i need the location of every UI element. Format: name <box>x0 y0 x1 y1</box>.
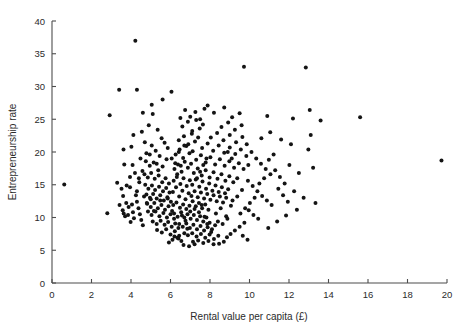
data-point <box>189 194 193 198</box>
data-point <box>228 145 232 149</box>
data-point <box>208 233 212 237</box>
data-point <box>195 218 199 222</box>
data-point <box>221 222 225 226</box>
data-point <box>166 197 170 201</box>
data-point <box>184 197 188 201</box>
data-point <box>137 180 141 184</box>
data-point <box>155 162 159 166</box>
data-point <box>135 88 139 92</box>
data-point <box>246 238 250 242</box>
data-point <box>254 157 258 161</box>
y-tick-label: 0 <box>40 278 45 289</box>
data-point <box>150 103 154 107</box>
data-point <box>193 207 197 211</box>
data-point <box>246 163 250 167</box>
data-point <box>131 163 135 167</box>
data-point <box>220 185 224 189</box>
data-point <box>278 175 282 179</box>
data-point <box>231 198 235 202</box>
data-point <box>157 174 161 178</box>
data-point <box>166 220 170 224</box>
data-point <box>225 235 229 239</box>
data-point <box>216 177 220 181</box>
data-point <box>201 122 205 126</box>
data-point <box>156 168 160 172</box>
x-tick-label: 2 <box>89 289 94 300</box>
data-point <box>164 227 168 231</box>
data-point <box>193 140 197 144</box>
data-point <box>223 191 227 195</box>
data-point <box>190 231 194 235</box>
y-tick-label: 35 <box>34 48 45 59</box>
data-point <box>184 207 188 211</box>
data-point <box>249 150 253 154</box>
data-point <box>251 213 255 217</box>
data-point <box>130 202 134 206</box>
data-point <box>182 231 186 235</box>
data-point <box>223 179 227 183</box>
data-point <box>197 185 201 189</box>
data-point <box>246 179 250 183</box>
data-point <box>138 157 142 161</box>
data-point <box>196 238 200 242</box>
data-point <box>308 108 312 112</box>
data-point <box>204 157 208 161</box>
data-point <box>188 178 192 182</box>
data-point <box>174 200 178 204</box>
data-point <box>171 203 175 207</box>
data-point <box>266 226 270 230</box>
data-point <box>128 185 132 189</box>
data-point <box>206 208 210 212</box>
data-point <box>287 163 291 167</box>
data-point <box>242 221 246 225</box>
data-point <box>169 90 173 94</box>
data-point <box>210 189 214 193</box>
data-point <box>177 195 181 199</box>
data-point <box>214 212 218 216</box>
data-point <box>161 189 165 193</box>
data-point <box>158 198 162 202</box>
data-point <box>140 130 144 134</box>
data-point <box>158 193 162 197</box>
data-point <box>158 154 162 158</box>
data-point <box>213 223 217 227</box>
data-point <box>182 176 186 180</box>
data-point <box>165 157 169 161</box>
data-point <box>205 192 209 196</box>
data-point <box>151 192 155 196</box>
data-point <box>198 214 202 218</box>
data-point <box>172 179 176 183</box>
data-point <box>281 193 285 197</box>
data-point <box>207 181 211 185</box>
data-point <box>165 216 169 220</box>
data-point <box>247 208 251 212</box>
data-point <box>144 159 148 163</box>
data-point <box>152 201 156 205</box>
y-tick-label: 20 <box>34 147 45 158</box>
data-point <box>149 171 153 175</box>
data-point <box>253 196 257 200</box>
data-point <box>151 219 155 223</box>
data-point <box>163 141 167 145</box>
x-tick-label: 18 <box>402 289 413 300</box>
data-point <box>155 228 159 232</box>
data-point <box>218 195 222 199</box>
data-point <box>265 114 269 118</box>
data-point <box>286 200 290 204</box>
data-point-layer <box>62 39 443 249</box>
data-point <box>149 205 153 209</box>
data-point <box>240 188 244 192</box>
data-point <box>122 162 126 166</box>
data-point <box>141 111 145 115</box>
data-point <box>198 170 202 174</box>
data-point <box>129 220 133 224</box>
data-point <box>184 219 188 223</box>
data-point <box>146 187 150 191</box>
data-point <box>289 142 293 146</box>
data-point <box>193 242 197 246</box>
data-point <box>229 204 233 208</box>
data-point <box>202 215 206 219</box>
data-point <box>257 181 261 185</box>
data-point <box>233 128 237 132</box>
data-point <box>212 170 216 174</box>
